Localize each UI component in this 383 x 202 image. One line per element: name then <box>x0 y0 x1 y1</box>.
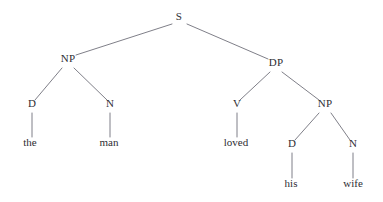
tree-branch-np1_n1 <box>74 68 107 100</box>
tree-node-layer: SNPDNDPVNPDNthemanlovedhiswife <box>23 10 363 189</box>
tree-node-n2: N <box>349 137 357 149</box>
tree-node-np2: NP <box>318 97 333 109</box>
tree-leaf-leaf_man: man <box>100 136 119 148</box>
tree-edge-layer <box>32 24 353 178</box>
tree-leaf-leaf_loved: loved <box>224 136 249 148</box>
tree-branch-s_dp <box>187 24 268 59</box>
tree-leaf-leaf_his: his <box>285 177 298 189</box>
tree-node-dp: DP <box>269 56 284 68</box>
tree-branch-np1_d1 <box>35 68 62 100</box>
syntax-tree-figure: SNPDNDPVNPDNthemanlovedhiswife <box>0 0 383 202</box>
tree-node-d2: D <box>288 137 296 149</box>
tree-canvas: SNPDNDPVNPDNthemanlovedhiswife <box>0 0 383 202</box>
tree-branch-np2_d2 <box>295 113 319 140</box>
tree-node-d1: D <box>28 97 36 109</box>
tree-node-v: V <box>233 97 241 109</box>
tree-node-np1: NP <box>61 52 76 64</box>
tree-branch-dp_np2 <box>282 72 319 100</box>
tree-leaf-leaf_the: the <box>23 136 37 148</box>
tree-branch-s_np1 <box>76 24 172 55</box>
tree-node-n1: N <box>106 97 114 109</box>
tree-leaf-leaf_wife: wife <box>343 177 363 189</box>
tree-branch-dp_v <box>240 72 270 100</box>
tree-branch-np2_n2 <box>331 113 350 140</box>
tree-node-s: S <box>176 10 182 22</box>
